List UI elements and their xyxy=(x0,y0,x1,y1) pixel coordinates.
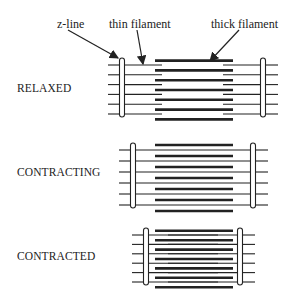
sarcomere-contracted xyxy=(132,228,255,287)
thick-filament-arrow xyxy=(210,30,239,61)
z-line xyxy=(120,58,125,117)
z-line xyxy=(251,143,256,208)
thin-filament-arrow xyxy=(137,30,143,64)
z-line xyxy=(261,58,266,117)
pointer-arrows xyxy=(68,30,239,64)
sarcomere-diagram xyxy=(0,0,287,301)
z-line xyxy=(144,228,149,285)
z-line-arrow xyxy=(68,30,118,58)
z-line xyxy=(131,143,136,208)
z-line xyxy=(238,228,243,285)
sarcomere-contracting xyxy=(119,143,268,211)
sarcomere-relaxed xyxy=(108,58,278,119)
